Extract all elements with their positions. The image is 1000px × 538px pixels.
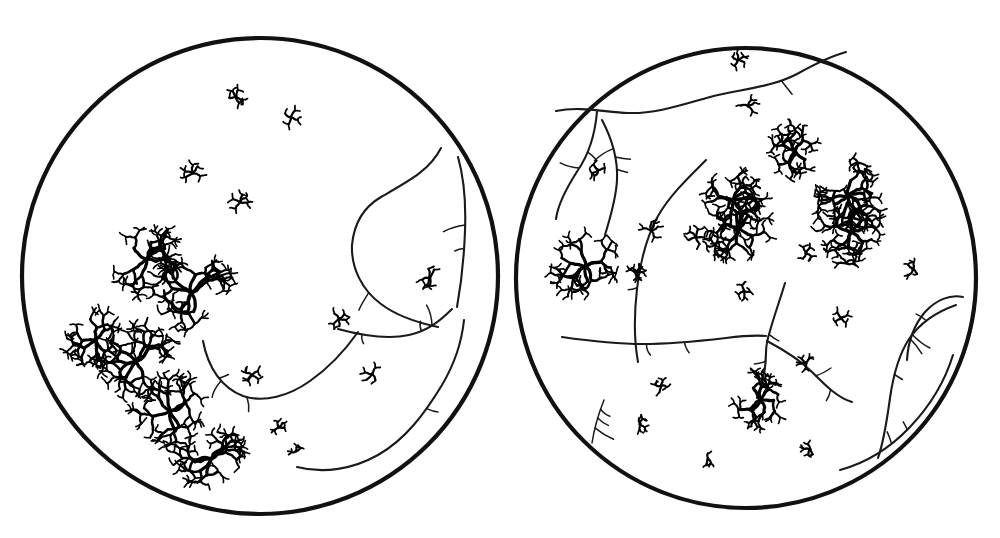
cell-process xyxy=(913,274,917,275)
cell-process xyxy=(126,237,135,238)
cell-process xyxy=(825,190,835,191)
cell-soma xyxy=(189,291,193,295)
left-field-outline xyxy=(22,38,498,514)
right-field-group xyxy=(516,48,976,508)
cell-process xyxy=(858,243,863,244)
cell-process xyxy=(736,183,743,184)
cell-process xyxy=(604,164,605,168)
cell-process xyxy=(202,317,208,318)
cell-process xyxy=(236,208,237,213)
cell-soma xyxy=(191,171,194,174)
cell-process xyxy=(809,358,813,359)
cell-process xyxy=(230,273,238,274)
cell-process xyxy=(181,258,182,264)
cell-soma xyxy=(633,270,636,273)
cell-process xyxy=(289,124,290,130)
cell-process xyxy=(814,190,815,196)
cell-soma xyxy=(804,251,807,254)
cell-soma xyxy=(250,373,253,376)
cell-soma xyxy=(706,457,709,460)
cell-process xyxy=(751,95,752,100)
cell-process xyxy=(144,287,152,288)
cell-process xyxy=(859,252,860,260)
cell-process xyxy=(733,417,739,418)
cell-soma xyxy=(659,384,662,387)
cell-soma xyxy=(289,115,292,118)
cell-process xyxy=(206,434,212,435)
cell-process xyxy=(563,236,568,237)
cell-process xyxy=(71,354,76,355)
cell-process xyxy=(99,371,106,372)
cell-soma xyxy=(694,235,697,238)
cell-process xyxy=(717,233,718,242)
cell-soma xyxy=(849,230,853,234)
figure-root xyxy=(0,0,1000,538)
cell-soma xyxy=(736,58,739,61)
cell-process xyxy=(235,450,245,452)
cell-process xyxy=(164,269,175,270)
cell-process xyxy=(827,216,834,217)
cell-process xyxy=(173,312,182,313)
cell-soma xyxy=(584,264,588,268)
cell-process xyxy=(94,361,101,362)
cell-process xyxy=(152,335,163,337)
cell-soma xyxy=(238,200,241,203)
cell-process xyxy=(841,224,847,225)
cell-process xyxy=(712,178,713,186)
cell-process xyxy=(430,285,436,286)
cell-process xyxy=(736,105,741,106)
cell-soma xyxy=(234,95,237,98)
cell-process xyxy=(804,159,805,167)
cell-process xyxy=(594,176,595,181)
cell-process xyxy=(241,444,242,450)
cell-process xyxy=(572,292,573,299)
cell-soma xyxy=(294,449,297,452)
cell-process xyxy=(114,266,115,272)
cell-process xyxy=(758,372,759,378)
cell-process xyxy=(748,372,753,373)
cell-process xyxy=(175,254,181,255)
cell-soma xyxy=(145,257,149,261)
cell-soma xyxy=(804,361,807,364)
cell-process xyxy=(224,290,231,291)
cell-soma xyxy=(649,228,652,231)
cell-soma xyxy=(134,359,138,363)
cell-soma xyxy=(370,372,373,375)
cell-process xyxy=(116,350,117,354)
cell-process xyxy=(639,265,640,269)
cell-process xyxy=(81,358,82,364)
cell-soma xyxy=(596,168,599,171)
cell-process xyxy=(174,267,184,268)
cell-soma xyxy=(428,275,431,278)
cell-process xyxy=(360,373,365,374)
cell-process xyxy=(877,241,881,242)
cell-process xyxy=(72,358,79,359)
cell-process xyxy=(802,132,803,141)
cell-process xyxy=(434,269,440,270)
cell-soma xyxy=(911,267,914,270)
cell-process xyxy=(644,427,645,432)
cell-process xyxy=(343,310,344,314)
cell-process xyxy=(119,382,120,389)
figure-canvas xyxy=(0,0,1000,538)
cell-soma xyxy=(638,422,641,425)
cell-process xyxy=(242,100,243,105)
cell-process xyxy=(735,184,736,189)
cell-soma xyxy=(737,226,741,230)
cell-process xyxy=(152,416,153,429)
cell-process xyxy=(760,400,774,401)
cell-process xyxy=(176,302,182,303)
cell-process xyxy=(585,227,586,233)
cell-process xyxy=(181,303,182,313)
cell-process xyxy=(96,352,97,360)
cell-process xyxy=(284,423,285,428)
cell-process xyxy=(143,395,149,396)
cell-process xyxy=(722,248,727,249)
cell-soma xyxy=(742,289,745,292)
cell-soma xyxy=(746,104,749,107)
cell-process xyxy=(76,324,82,325)
cell-process xyxy=(744,62,745,67)
cell-process xyxy=(705,203,706,208)
cell-process xyxy=(374,362,376,367)
cell-process xyxy=(170,435,171,444)
